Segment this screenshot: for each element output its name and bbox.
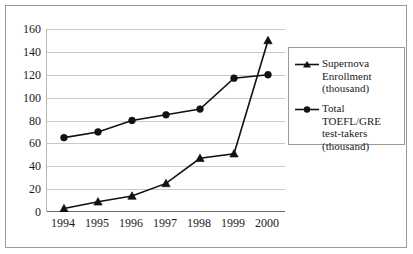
y-axis-tick-labels: 020406080100120140160 (0, 0, 41, 254)
data-point-circle (61, 134, 68, 141)
data-point-circle (231, 75, 238, 82)
chart-legend: Supernova Enrollment (thousand)Total TOE… (288, 47, 405, 145)
data-point-triangle (230, 149, 238, 157)
legend-marker (304, 106, 310, 112)
data-point-circle (197, 106, 204, 113)
legend-triangle-marker-icon (294, 58, 320, 71)
y-tick-label: 100 (23, 92, 41, 104)
y-tick-label: 20 (29, 183, 41, 195)
data-point-circle (95, 129, 102, 136)
legend-label: Total TOEFL/GRE test-takers (thousand) (320, 102, 404, 152)
x-tick-label: 1996 (119, 216, 143, 230)
x-tick-label: 1997 (153, 216, 177, 230)
plot-svg (47, 29, 285, 212)
x-axis-tick-labels: 1994199519961997199819992000 (46, 216, 284, 234)
legend-label: Supernova Enrollment (thousand) (320, 57, 372, 95)
x-tick-label: 1998 (187, 216, 211, 230)
legend-entry-0[interactable]: Supernova Enrollment (thousand) (294, 57, 372, 95)
plot-area (46, 29, 284, 212)
y-tick-label: 120 (23, 69, 41, 81)
chart-figure: 020406080100120140160 199419951996199719… (0, 0, 413, 254)
data-point-circle (163, 111, 170, 118)
y-tick-label: 160 (23, 23, 41, 35)
y-tick-label: 40 (29, 160, 41, 172)
legend-circle-marker-icon (294, 103, 320, 116)
y-tick-label: 0 (35, 206, 41, 218)
y-tick-label: 80 (29, 115, 41, 127)
y-tick-label: 60 (29, 137, 41, 149)
data-point-triangle (264, 36, 272, 44)
data-point-circle (129, 117, 136, 124)
legend-entry-1[interactable]: Total TOEFL/GRE test-takers (thousand) (294, 102, 404, 152)
y-tick-label: 140 (23, 46, 41, 58)
series-line-1 (64, 75, 268, 138)
data-point-circle (265, 71, 272, 78)
x-tick-label: 1994 (51, 216, 75, 230)
x-tick-label: 1995 (85, 216, 109, 230)
x-tick-label: 1999 (221, 216, 245, 230)
x-tick-label: 2000 (255, 216, 279, 230)
